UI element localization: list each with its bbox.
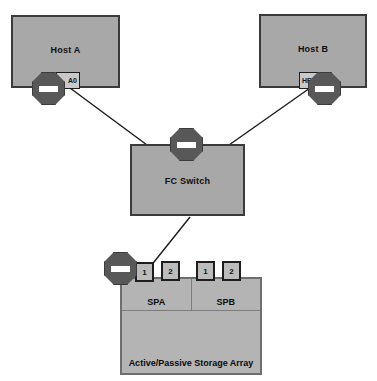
- blocked-path-octagon-icon: [104, 252, 137, 285]
- host-a-hba-label: A0: [68, 77, 77, 84]
- spa-label: SPA: [122, 297, 191, 307]
- octagon-bar: [315, 86, 334, 92]
- spb-port-2-label: 2: [229, 267, 233, 276]
- octagon-bar: [177, 142, 196, 148]
- link-host-b-to-switch: [229, 88, 310, 145]
- spa-port-2[interactable]: 2: [161, 261, 180, 281]
- spb-port-1-label: 1: [203, 267, 207, 276]
- host-a-label: Host A: [13, 45, 118, 55]
- storage-section-divider: [122, 310, 260, 311]
- spa-port-2-label: 2: [168, 267, 172, 276]
- octagon-bar: [111, 266, 130, 272]
- storage-processor-spb[interactable]: SPB: [192, 279, 261, 310]
- spa-port-1-label: 1: [142, 268, 146, 277]
- spa-port-1[interactable]: 1: [135, 262, 154, 282]
- storage-array-label: Active/Passive Storage Array: [122, 358, 260, 368]
- storage-processor-spa[interactable]: SPA: [122, 279, 192, 310]
- blocked-path-octagon-icon: [308, 72, 341, 105]
- spb-label: SPB: [192, 297, 261, 307]
- octagon-bar: [39, 86, 58, 92]
- host-b-label: Host B: [261, 44, 365, 54]
- diagram-canvas: Host A A0 Host B HB FC Switch SPA SPB Ac…: [0, 0, 377, 381]
- storage-array-node[interactable]: SPA SPB Active/Passive Storage Array: [120, 277, 262, 375]
- link-host-a-to-switch: [70, 88, 147, 145]
- storage-processor-row: SPA SPB: [122, 279, 260, 310]
- spb-port-1[interactable]: 1: [196, 261, 215, 281]
- fc-switch-label: FC Switch: [132, 176, 243, 186]
- spb-port-2[interactable]: 2: [222, 261, 241, 281]
